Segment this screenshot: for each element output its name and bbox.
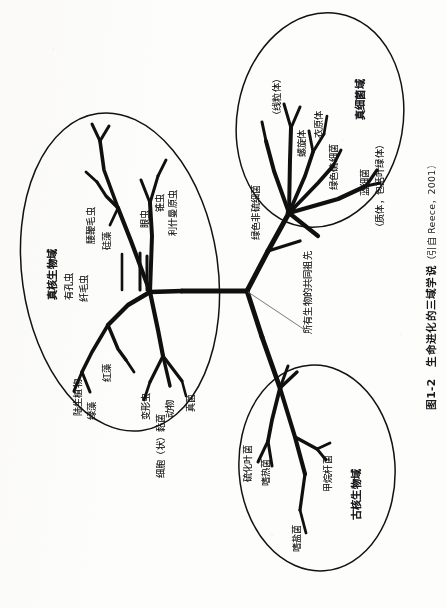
arc-euryarchaeota-backbone	[280, 388, 305, 474]
arc-br-crenarchaeota	[268, 388, 280, 441]
figure-caption-title: 图1-2 生命进化的三域学说（引自 Reece，2001）	[423, 160, 438, 410]
euk-lower-backbone	[108, 292, 150, 325]
domain-label-eukarya: 真核生物域	[44, 249, 59, 300]
taxon-label-sulfolobus: 硫化叶菌	[240, 445, 254, 482]
root-node-to-archaea	[247, 291, 262, 337]
figure-number: 图1-2	[425, 379, 437, 410]
eukarya-oval	[1, 100, 240, 444]
arc-stem	[262, 337, 280, 388]
euk-tip-leishmania	[158, 160, 166, 176]
euk-tip-dinoflagellate	[92, 124, 100, 141]
euk-tip-foram	[86, 172, 97, 182]
taxon-label-foraminifera: 有孔虫	[61, 272, 75, 300]
figure-title-text: 生命进化的三域学说	[425, 265, 437, 367]
domain-label-archaea: 古核生物域	[348, 469, 363, 520]
taxon-label-animals: 动物	[162, 400, 176, 418]
taxon-label-diatom: 硅藻	[99, 232, 113, 250]
taxon-label-chlamydia: 衣原体	[311, 110, 325, 138]
bac-br-proteobacteria	[289, 128, 291, 213]
taxon-label-red-algae: 红藻	[99, 364, 113, 382]
taxon-label-thermophile: 嗜热菌	[258, 458, 272, 486]
taxon-label-leishmania: 利什曼原虫	[165, 190, 179, 236]
euk-tip-redalgae	[126, 360, 134, 372]
phylogenetic-tree-drawing	[0, 0, 446, 608]
taxon-label-cellular-slime-mold: 细胞（状）黏菌	[153, 414, 167, 478]
taxon-label-green-sulfur-bacteria: 绿色硫细菌	[326, 144, 340, 190]
taxon-label-green-nonsulfur-bacteria: 绿色非硫细菌	[248, 185, 262, 240]
arc-tip-methanogen	[317, 443, 330, 449]
bac-tip-proteo2	[291, 107, 300, 128]
taxon-label-dinoflagellate: 腰鞭毛虫	[83, 207, 97, 244]
figure-area: 真核生物域 真细菌域 古核生物域 所有生物的共同祖先 腰鞭毛虫 有孔虫 纤毛虫 …	[0, 0, 446, 608]
bac-tip-greennonsulfur	[262, 122, 266, 141]
euk-tip-euglena	[141, 180, 150, 203]
euk-tip-ciliate	[110, 208, 118, 225]
taxon-label-cyanobacteria: 蓝细菌	[357, 168, 371, 196]
bac-br-spirochete	[289, 152, 313, 213]
taxon-label-trypanosome: 锥虫	[152, 194, 166, 212]
taxon-label-halophile: 嗜盐菌	[289, 524, 303, 552]
taxon-label-spirochete: 螺旋体	[294, 129, 308, 157]
taxon-label-ciliate: 纤毛虫	[76, 274, 90, 302]
bac-tip-mitochondria	[284, 104, 291, 128]
euk-tip-diatom	[100, 126, 109, 141]
bac-br-greennonsulfur	[266, 141, 289, 213]
euk-stem	[150, 291, 182, 292]
root-annotation-label-line1: 所有生物的共同祖先	[300, 251, 314, 334]
taxon-label-methanogen: 甲烷杆菌	[320, 455, 334, 492]
taxon-label-plastids: （质体，包括叶绿体）	[372, 140, 386, 232]
domain-label-bacteria: 真细菌域	[352, 79, 367, 120]
taxon-label-fungi: 真菌	[183, 394, 197, 412]
arc-tip-halophile	[300, 474, 305, 510]
root-node-to-bacteria	[247, 251, 268, 291]
taxon-label-mitochondria: （线粒体）	[269, 74, 283, 120]
taxon-label-euglena: 眼虫	[137, 210, 151, 228]
bacteria-crown-node	[286, 210, 293, 217]
euk-tip-amoeba	[150, 356, 163, 382]
euk-br-opisthokonta	[150, 292, 163, 356]
taxon-label-amoeba: 变形虫	[138, 392, 152, 420]
figure-source: （引自 Reece，2001）	[426, 160, 437, 265]
taxon-label-green-algae: 绿藻	[84, 402, 98, 420]
taxon-label-land-plants: 陆生植物	[70, 379, 84, 416]
euk-br-redalgae	[108, 325, 126, 360]
